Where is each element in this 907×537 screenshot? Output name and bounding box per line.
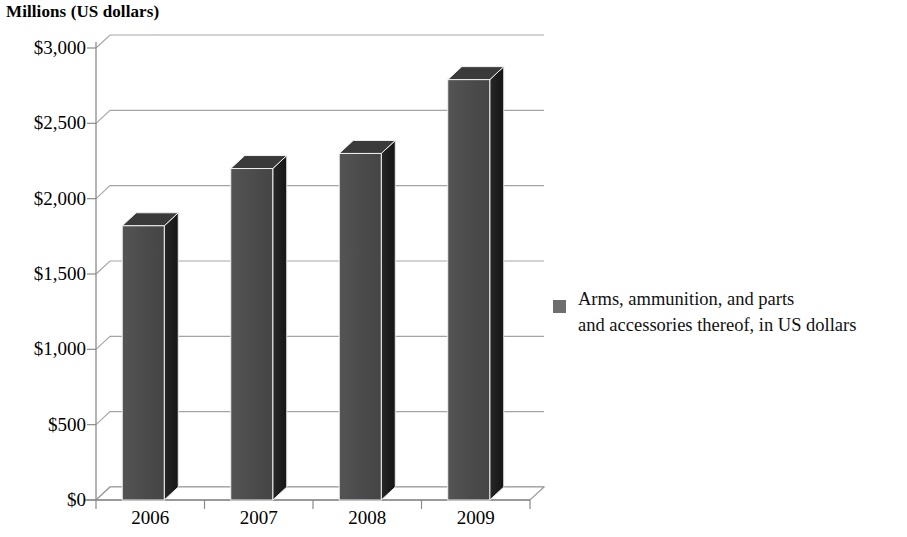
- x-axis-tick-label: 2007: [219, 508, 299, 527]
- y-axis-tick-label: $3,000: [0, 38, 86, 57]
- y-axis-tick-label: $0: [0, 490, 86, 509]
- bar-2009: [448, 67, 504, 500]
- x-axis-tick-label: 2009: [436, 508, 516, 527]
- plot-area: [0, 0, 907, 537]
- legend-label: Arms, ammunition, and parts and accessor…: [578, 286, 856, 339]
- y-axis-tick-label: $1,500: [0, 264, 86, 283]
- legend-swatch-icon: [553, 300, 566, 313]
- bar-2006: [122, 213, 178, 500]
- y-axis-tick-label: $2,500: [0, 113, 86, 132]
- y-axis-tick-label: $500: [0, 415, 86, 434]
- bar-2007: [231, 156, 287, 500]
- x-axis-tick-label: 2008: [327, 508, 407, 527]
- legend: Arms, ammunition, and parts and accessor…: [553, 286, 856, 339]
- bars: [122, 67, 504, 500]
- x-axis-tick-label: 2006: [110, 508, 190, 527]
- y-axis-tick-label: $2,000: [0, 189, 86, 208]
- y-axis-tick-label: $1,000: [0, 339, 86, 358]
- bar-chart: Millions (US dollars) $0$500$1,000$1,500…: [0, 0, 907, 537]
- bar-2008: [339, 140, 395, 500]
